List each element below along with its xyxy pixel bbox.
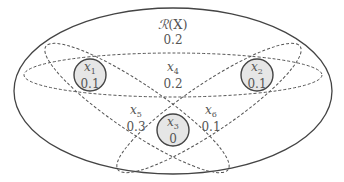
universe-script: ℛ (158, 17, 168, 32)
region-x6: x6 0.1 (201, 104, 220, 134)
x3-value: 0 (169, 132, 177, 146)
region-x4: x4 0.2 (163, 61, 182, 91)
region-x2: x2 0.1 (247, 61, 266, 91)
universe-value: 0.2 (163, 34, 182, 47)
region-x5: x5 0.3 (126, 104, 145, 134)
x1-value: 0.1 (80, 77, 99, 91)
universe-paren: (X) (168, 17, 187, 32)
x2-value: 0.1 (247, 77, 266, 91)
x6-value: 0.1 (201, 120, 220, 134)
region-x3: x3 0 (167, 116, 179, 146)
universe-label: ℛ(X) (158, 18, 187, 31)
region-x1: x1 0.1 (80, 61, 99, 91)
x4-value: 0.2 (163, 77, 182, 91)
x5-value: 0.3 (126, 120, 145, 134)
